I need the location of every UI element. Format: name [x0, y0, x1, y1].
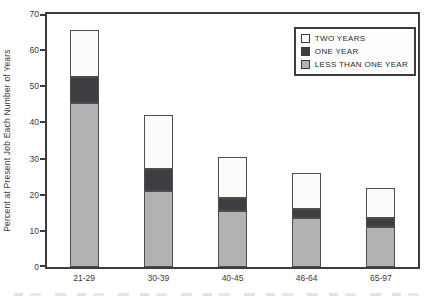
y-tick-label: 50	[15, 81, 39, 91]
legend-label: ONE YEAR	[315, 47, 359, 56]
bar-segment-two-years-65-97	[366, 188, 395, 219]
legend-swatch-icon	[301, 60, 310, 69]
bar-segment-less-than-one-year-21-29	[70, 103, 99, 267]
y-tick-mark	[40, 194, 45, 196]
x-axis-label-40-45: 40-45	[207, 273, 259, 283]
bar-segment-one-year-65-97	[366, 218, 395, 227]
legend-item-less-than-one-year: LESS THAN ONE YEAR	[301, 58, 408, 70]
y-tick-mark	[40, 121, 45, 123]
y-tick-label: 20	[15, 190, 39, 200]
bar-segment-two-years-30-39	[144, 115, 173, 169]
bar-segment-less-than-one-year-30-39	[144, 191, 173, 267]
legend-label: TWO YEARS	[315, 34, 366, 43]
y-tick-label: 60	[15, 45, 39, 55]
y-tick-mark	[40, 14, 45, 16]
bar-segment-one-year-40-45	[218, 198, 247, 211]
legend-swatch-icon	[301, 47, 310, 56]
y-tick-label: 0	[15, 262, 39, 272]
y-tick-mark	[40, 85, 45, 87]
y-axis-title: Percent at Present Job Each Number of Ye…	[2, 13, 15, 268]
bar-segment-one-year-46-64	[292, 209, 321, 218]
bar-chart-figure: Percent at Present Job Each Number of Ye…	[0, 0, 435, 299]
legend-item-two-years: TWO YEARS	[301, 32, 408, 44]
legend-swatch-icon	[301, 34, 310, 43]
y-tick-label: 10	[15, 226, 39, 236]
y-tick-mark	[40, 49, 45, 51]
bar-segment-less-than-one-year-46-64	[292, 218, 321, 267]
cropped-caption-fragment	[14, 293, 427, 296]
y-tick-mark	[40, 230, 45, 232]
y-tick-label: 40	[15, 117, 39, 127]
bar-segment-one-year-30-39	[144, 169, 173, 191]
bar-segment-less-than-one-year-65-97	[366, 227, 395, 267]
legend-label: LESS THAN ONE YEAR	[315, 60, 408, 69]
legend-item-one-year: ONE YEAR	[301, 45, 408, 57]
y-tick-mark	[40, 265, 45, 267]
bar-segment-two-years-21-29	[70, 30, 99, 77]
x-axis-label-30-39: 30-39	[132, 273, 184, 283]
y-tick-label: 30	[15, 154, 39, 164]
bar-segment-one-year-21-29	[70, 77, 99, 102]
legend: TWO YEARSONE YEARLESS THAN ONE YEAR	[294, 27, 416, 76]
bar-segment-two-years-46-64	[292, 173, 321, 209]
bar-segment-two-years-40-45	[218, 157, 247, 199]
x-axis-label-65-97: 65-97	[355, 273, 407, 283]
x-axis-label-46-64: 46-64	[281, 273, 333, 283]
x-axis-label-21-29: 21-29	[58, 273, 110, 283]
y-tick-label: 70	[15, 9, 39, 19]
bar-segment-less-than-one-year-40-45	[218, 211, 247, 267]
y-tick-mark	[40, 158, 45, 160]
plot-area: 010203040506070 21-2930-3940-4546-6465-9…	[45, 12, 420, 269]
